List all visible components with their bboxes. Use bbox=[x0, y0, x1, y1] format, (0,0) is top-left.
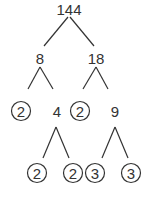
node-18: 18 bbox=[88, 50, 105, 67]
tree-edges bbox=[28, 17, 128, 158]
node-label: 4 bbox=[53, 103, 61, 120]
edge-4-2-right bbox=[56, 127, 69, 158]
node-4: 4 bbox=[53, 103, 61, 120]
node-label: 2 bbox=[69, 165, 77, 182]
node-9: 9 bbox=[111, 103, 119, 120]
edge-144-18 bbox=[70, 17, 94, 46]
node-label: 9 bbox=[111, 103, 119, 120]
edge-4-2-left bbox=[43, 127, 56, 158]
node-144: 144 bbox=[56, 1, 81, 18]
node-label: 18 bbox=[88, 50, 105, 67]
prime-node-2: 2 bbox=[28, 164, 47, 183]
edge-144-8 bbox=[44, 17, 68, 46]
node-label: 8 bbox=[36, 50, 44, 67]
edge-9-3-left bbox=[102, 127, 115, 158]
node-label: 2 bbox=[76, 103, 84, 120]
factor-tree-diagram: 144 8 18 2 4 2 9 2 2 3 3 bbox=[0, 0, 151, 207]
prime-node-2: 2 bbox=[12, 102, 31, 121]
prime-node-3: 3 bbox=[86, 164, 105, 183]
edge-18-2 bbox=[83, 67, 96, 89]
prime-node-2: 2 bbox=[64, 164, 83, 183]
prime-node-3: 3 bbox=[122, 164, 141, 183]
prime-node-2: 2 bbox=[71, 102, 90, 121]
node-label: 144 bbox=[56, 1, 81, 18]
edge-18-9 bbox=[96, 67, 108, 89]
edge-9-3-right bbox=[115, 127, 128, 158]
node-label: 2 bbox=[33, 165, 41, 182]
edge-8-4 bbox=[40, 67, 53, 89]
node-label: 2 bbox=[17, 103, 25, 120]
node-label: 3 bbox=[127, 165, 135, 182]
node-8: 8 bbox=[36, 50, 44, 67]
node-label: 3 bbox=[91, 165, 99, 182]
edge-8-2 bbox=[28, 67, 40, 89]
